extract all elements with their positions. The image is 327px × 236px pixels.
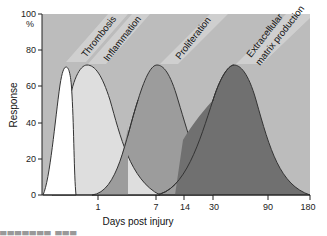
x-tick-7: 7 (153, 202, 158, 212)
x-tick-14: 14 (180, 202, 190, 212)
y-tick-100: 100 (21, 9, 36, 19)
y-tick-60: 60 (26, 81, 36, 91)
y-tick-40: 40 (26, 118, 36, 128)
x-tick-labels: 1 7 14 30 90 180 (95, 202, 315, 212)
y-tick-0: 0 (31, 190, 36, 200)
x-axis-title: Days post injury (102, 216, 173, 227)
x-tick-90: 90 (263, 202, 273, 212)
y-tick-labels: 100 % 80 60 40 20 0 (21, 9, 36, 200)
y-axis-title: Response (8, 82, 19, 127)
y-tick-80: 80 (26, 45, 36, 55)
y-tick-20: 20 (26, 154, 36, 164)
x-ticks (98, 195, 310, 200)
x-tick-180: 180 (300, 202, 315, 212)
figure-caption-cropped: ▀▀▀▀▀▀▀ ▀▀▀ (0, 231, 80, 236)
x-tick-30: 30 (209, 202, 219, 212)
y-unit: % (26, 19, 34, 29)
wound-healing-chart: 100 % 80 60 40 20 0 Response 1 7 14 30 9… (0, 0, 327, 236)
y-ticks (38, 14, 42, 195)
x-tick-1: 1 (95, 202, 100, 212)
